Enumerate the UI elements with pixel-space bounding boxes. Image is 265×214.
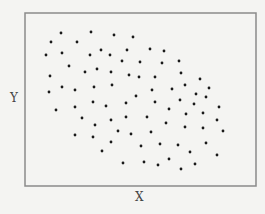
y-axis-label: Y (10, 91, 18, 105)
data-point (180, 72, 183, 75)
data-point (100, 49, 103, 52)
data-point (193, 103, 196, 106)
data-point (74, 89, 77, 92)
data-point (109, 54, 112, 57)
data-point (205, 142, 208, 145)
data-point (216, 119, 219, 122)
data-point (161, 62, 164, 65)
data-point (135, 95, 138, 98)
data-point (146, 116, 149, 119)
data-point (113, 34, 116, 37)
data-point (138, 76, 141, 79)
data-point (110, 119, 113, 122)
data-point (139, 61, 142, 64)
data-point (122, 162, 125, 165)
data-point (48, 91, 51, 94)
data-point (125, 116, 128, 119)
data-point (121, 60, 124, 63)
plot-area (0, 0, 265, 214)
data-point (185, 113, 188, 116)
data-point (101, 150, 104, 153)
data-point (81, 117, 84, 120)
data-point (92, 101, 95, 104)
data-point (94, 124, 97, 127)
data-point (171, 88, 174, 91)
data-point (149, 48, 152, 51)
data-point (84, 71, 87, 74)
data-point (45, 54, 48, 57)
data-point (60, 32, 63, 35)
data-point (74, 106, 77, 109)
plot-frame (25, 13, 256, 186)
data-point (168, 158, 171, 161)
data-point (61, 52, 64, 55)
data-point (222, 130, 225, 133)
data-point (126, 49, 129, 52)
data-point (189, 151, 192, 154)
data-point (92, 136, 95, 139)
data-point (154, 76, 157, 79)
data-point (110, 71, 113, 74)
data-point (218, 106, 221, 109)
data-point (178, 60, 181, 63)
data-point (49, 75, 52, 78)
data-point (163, 50, 166, 53)
data-point (157, 164, 160, 167)
data-point (50, 41, 53, 44)
data-point (194, 163, 197, 166)
data-point (184, 84, 187, 87)
data-point (177, 144, 180, 147)
data-point (76, 41, 79, 44)
data-point (125, 102, 128, 105)
data-point (74, 134, 77, 137)
data-point (132, 36, 135, 39)
data-point (202, 112, 205, 115)
data-point (199, 78, 202, 81)
data-point (168, 108, 171, 111)
data-point (150, 131, 153, 134)
data-point (130, 133, 133, 136)
data-point (205, 96, 208, 99)
data-point (55, 109, 58, 112)
data-point (195, 93, 198, 96)
data-point (105, 105, 108, 108)
data-point (68, 65, 71, 68)
data-point (90, 31, 93, 34)
data-point (140, 145, 143, 148)
data-point (202, 127, 205, 130)
data-point (154, 101, 157, 104)
data-point (180, 168, 183, 171)
scatter-chart: Y X (0, 0, 265, 214)
data-point (61, 86, 64, 89)
data-point (128, 74, 131, 77)
data-point (159, 143, 162, 146)
data-point (93, 86, 96, 89)
data-point (151, 89, 154, 92)
data-point (216, 154, 219, 157)
data-point (111, 84, 114, 87)
data-point (117, 130, 120, 133)
data-point (165, 122, 168, 125)
x-axis-label: X (135, 190, 144, 204)
data-point (96, 68, 99, 71)
data-point (143, 161, 146, 164)
data-point (89, 54, 92, 57)
data-point (184, 126, 187, 129)
data-point (110, 141, 113, 144)
data-point (179, 99, 182, 102)
data-point (208, 87, 211, 90)
